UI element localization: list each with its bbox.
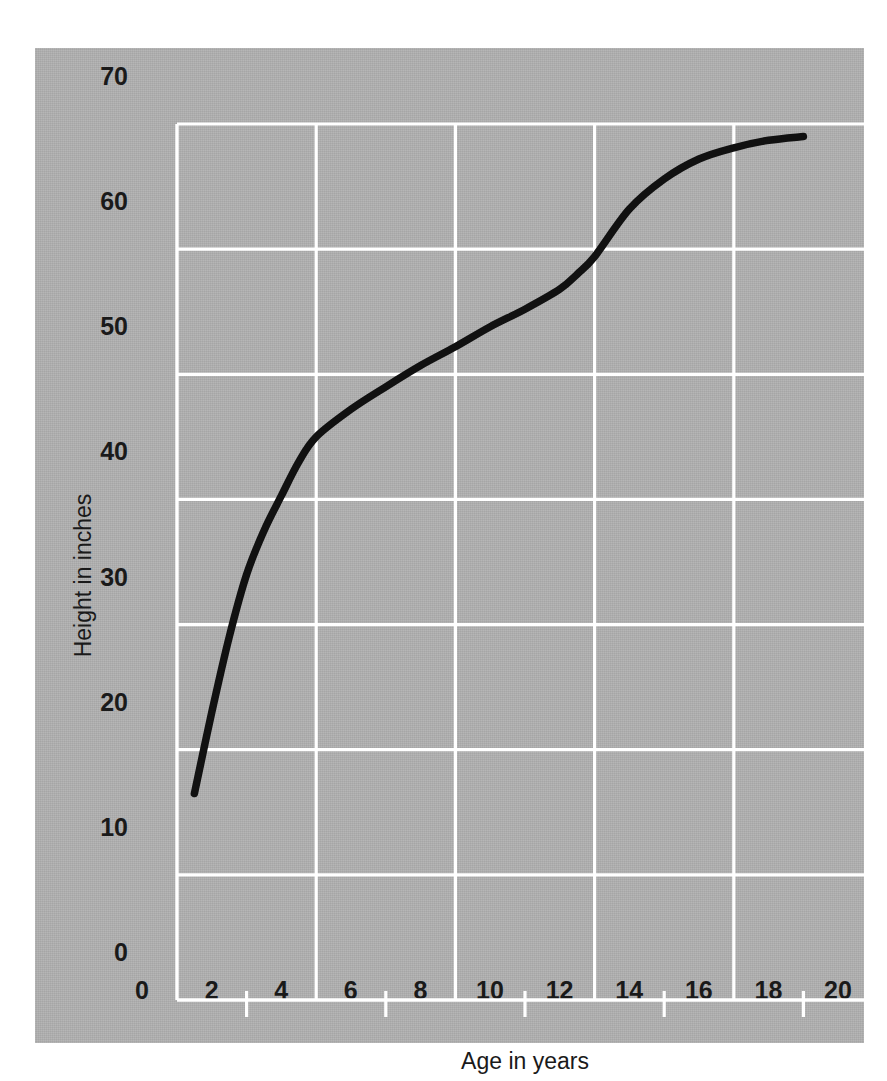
x-tick-label-8: 8 — [413, 976, 427, 1005]
growth-curve-plot — [35, 48, 887, 1081]
y-tick-label-60: 60 — [42, 187, 128, 216]
y-tick-label-40: 40 — [42, 437, 128, 466]
y-tick-label-10: 10 — [42, 812, 128, 841]
x-tick-label-4: 4 — [274, 976, 288, 1005]
x-tick-label-0: 0 — [135, 976, 149, 1005]
x-tick-label-14: 14 — [615, 976, 643, 1005]
y-tick-label-30: 30 — [42, 562, 128, 591]
x-tick-label-12: 12 — [546, 976, 574, 1005]
x-tick-label-20: 20 — [824, 976, 852, 1005]
x-tick-label-10: 10 — [476, 976, 504, 1005]
height-curve — [194, 137, 803, 794]
x-tick-label-16: 16 — [685, 976, 713, 1005]
gridlines — [177, 124, 873, 1000]
y-tick-label-50: 50 — [42, 312, 128, 341]
figure-panel: Height in inches Age in years 0102030405… — [35, 48, 864, 1043]
y-tick-label-20: 20 — [42, 687, 128, 716]
y-tick-label-70: 70 — [42, 62, 128, 91]
axis-frame — [177, 124, 873, 1000]
x-tick-label-18: 18 — [754, 976, 782, 1005]
x-axis-title: Age in years — [177, 1048, 873, 1075]
y-tick-label-0: 0 — [42, 938, 128, 967]
x-tick-label-2: 2 — [205, 976, 219, 1005]
x-tick-label-6: 6 — [344, 976, 358, 1005]
axis-tickmarks — [247, 991, 804, 1017]
